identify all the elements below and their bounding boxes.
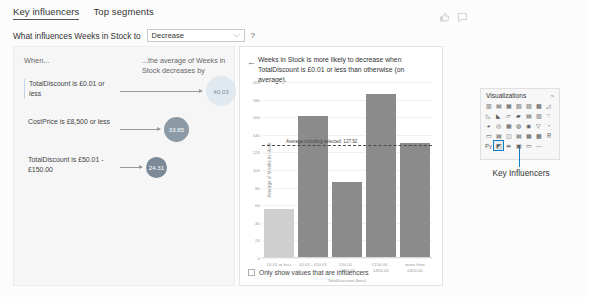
more-options-icon[interactable]: ⋯ <box>534 141 543 150</box>
clustered-bar-chart-icon[interactable]: ▦ <box>504 101 513 110</box>
stacked-column-chart-icon[interactable]: ▤ <box>494 101 503 110</box>
visual-tabs: Key influencers Top segments <box>13 6 154 20</box>
bar-slot <box>400 81 431 257</box>
area-chart-icon[interactable]: ◺ <box>484 111 493 120</box>
influencer-label: TotalDiscount is £0.01 or less <box>24 79 116 99</box>
question-row: What influences Weeks in Stock to Decrea… <box>13 29 255 42</box>
bar[interactable] <box>400 143 431 257</box>
tab-key-influencers[interactable]: Key influencers <box>13 6 79 20</box>
y-axis-tick: 200 <box>253 80 260 85</box>
x-axis-tick: more than £450.00 <box>400 262 431 274</box>
matrix-icon[interactable]: ▩ <box>534 131 543 140</box>
when-header: When... <box>24 56 49 65</box>
y-axis-tick: 80 <box>255 185 260 190</box>
funnel-icon[interactable]: ▽ <box>534 121 543 130</box>
influencer-row[interactable]: TotalDiscount is £0.01 or less 40.03 <box>24 75 229 115</box>
line-stacked-column-icon[interactable]: ▱ <box>504 111 513 120</box>
influencer-row[interactable]: TotalDiscount is £50.01 - £150.00 24.31 <box>24 151 229 191</box>
100-stacked-bar-icon[interactable]: ▨ <box>524 101 533 110</box>
bar[interactable] <box>332 182 363 257</box>
influencer-bubble[interactable]: 33.85 <box>164 117 189 142</box>
y-axis-tick: 180 <box>253 97 260 102</box>
influencers-panel: When... ...the average of Weeks in Stock… <box>13 46 235 286</box>
decomposition-tree-icon[interactable]: ⇻ <box>504 141 513 150</box>
x-axis-label: TotalDiscount (bins) <box>262 278 432 283</box>
100-stacked-column-icon[interactable]: ▩ <box>534 101 543 110</box>
tab-top-segments[interactable]: Top segments <box>93 6 153 20</box>
only-influencers-row[interactable]: Only show values that are influencers <box>248 269 369 276</box>
key-influencers-icon[interactable]: ◩ <box>494 141 503 150</box>
bar-slot <box>332 81 363 257</box>
stacked-area-chart-icon[interactable]: ◣ <box>494 111 503 120</box>
treemap-icon[interactable]: ▦ <box>504 121 513 130</box>
back-arrow-icon[interactable]: ← <box>247 57 256 67</box>
influencer-detail-panel: ← Weeks in Stock is more likely to decre… <box>239 46 443 286</box>
average-header: ...the average of Weeks in Stock decreas… <box>142 56 230 76</box>
stacked-bar-chart-icon[interactable]: ▥ <box>484 101 493 110</box>
visualizations-header: Visualizations > <box>481 89 559 100</box>
key-influencers-caption: Key Influencers <box>475 168 567 178</box>
y-axis-tick: 160 <box>253 115 260 120</box>
smart-narrative-icon[interactable]: ▭ <box>524 141 533 150</box>
waterfall-chart-icon[interactable]: ▥ <box>534 111 543 120</box>
thumbs-up-icon[interactable] <box>439 9 450 20</box>
chevron-expand-icon[interactable]: > <box>550 93 554 99</box>
line-clustered-column-icon[interactable]: ▰ <box>514 111 523 120</box>
ribbon-chart-icon[interactable]: ▤ <box>524 111 533 120</box>
influence-arrow-icon <box>120 129 160 130</box>
bar-slot <box>298 81 329 257</box>
comment-icon[interactable] <box>457 9 468 20</box>
table-icon[interactable]: ▦ <box>524 131 533 140</box>
influence-direction-select[interactable]: Decrease <box>147 29 245 42</box>
bar[interactable] <box>298 116 329 257</box>
y-axis-tick: 0 <box>258 256 260 261</box>
multi-row-card-icon[interactable]: ▤ <box>494 131 503 140</box>
bar[interactable] <box>366 94 397 257</box>
map-icon[interactable]: ◍ <box>514 121 523 130</box>
question-label: What influences Weeks in Stock to <box>13 31 141 41</box>
average-line <box>262 145 432 146</box>
influence-direction-value: Decrease <box>152 31 185 40</box>
card-icon[interactable]: ▭ <box>484 131 493 140</box>
x-axis <box>262 257 432 258</box>
python-visual-icon[interactable]: Py <box>484 141 493 150</box>
y-axis-tick: 140 <box>253 132 260 137</box>
y-axis-tick: 60 <box>255 203 260 208</box>
influencer-label: TotalDiscount is £50.01 - £150.00 <box>24 155 116 175</box>
grid-line <box>262 258 432 259</box>
y-axis-tick: 100 <box>253 168 260 173</box>
average-line-label: Average including selected: 127.92 <box>286 139 357 144</box>
visualizations-pane: Visualizations > ▥▤▦▧▨▩◿◺◣▱▰▤▥⁙◕◎▦◍◉▽◔▭▤… <box>480 88 560 160</box>
influencer-row[interactable]: CostPrice is £8,500 or less 33.85 <box>24 113 229 153</box>
scatter-chart-icon[interactable]: ⁙ <box>544 111 553 120</box>
pie-chart-icon[interactable]: ◕ <box>484 121 493 130</box>
filled-map-icon[interactable]: ◉ <box>524 121 533 130</box>
influencer-bubble[interactable]: 40.03 <box>206 76 236 106</box>
y-axis-tick: 120 <box>253 150 260 155</box>
y-axis-tick: 20 <box>255 238 260 243</box>
donut-chart-icon[interactable]: ◎ <box>494 121 503 130</box>
only-influencers-label: Only show values that are influencers <box>259 269 369 276</box>
help-icon[interactable]: ? <box>251 31 255 40</box>
visual-type-grid: ▥▤▦▧▨▩◿◺◣▱▰▤▥⁙◕◎▦◍◉▽◔▭▤◫▤▦▩ＲPy◩⇻▣▭⋯ <box>481 100 559 151</box>
influencer-bubble[interactable]: 24.31 <box>146 157 167 178</box>
line-chart-icon[interactable]: ◿ <box>544 101 553 110</box>
bar-slot <box>366 81 397 257</box>
bar[interactable] <box>264 209 295 257</box>
bar-series <box>262 81 432 257</box>
power-bi-key-influencers-screen: Key influencers Top segments What influe… <box>0 0 589 297</box>
influencer-label: CostPrice is £8,500 or less <box>24 117 116 127</box>
r-script-icon[interactable]: Ｒ <box>544 131 553 140</box>
only-influencers-checkbox[interactable] <box>248 269 255 276</box>
influence-arrow-icon <box>120 167 142 168</box>
clustered-column-chart-icon[interactable]: ▧ <box>514 101 523 110</box>
kpi-icon[interactable]: ◫ <box>504 131 513 140</box>
bar-chart-plot: Average of Weeks in Stock 02040608010012… <box>262 82 432 258</box>
influence-arrow-icon <box>120 91 202 92</box>
x-axis-tick: £150.00 - £450.00 <box>366 262 397 274</box>
visualizations-title: Visualizations <box>486 92 526 99</box>
y-axis-tick: 40 <box>255 220 260 225</box>
slicer-icon[interactable]: ▤ <box>514 131 523 140</box>
gauge-icon[interactable]: ◔ <box>544 121 553 130</box>
bar-slot <box>264 81 295 257</box>
